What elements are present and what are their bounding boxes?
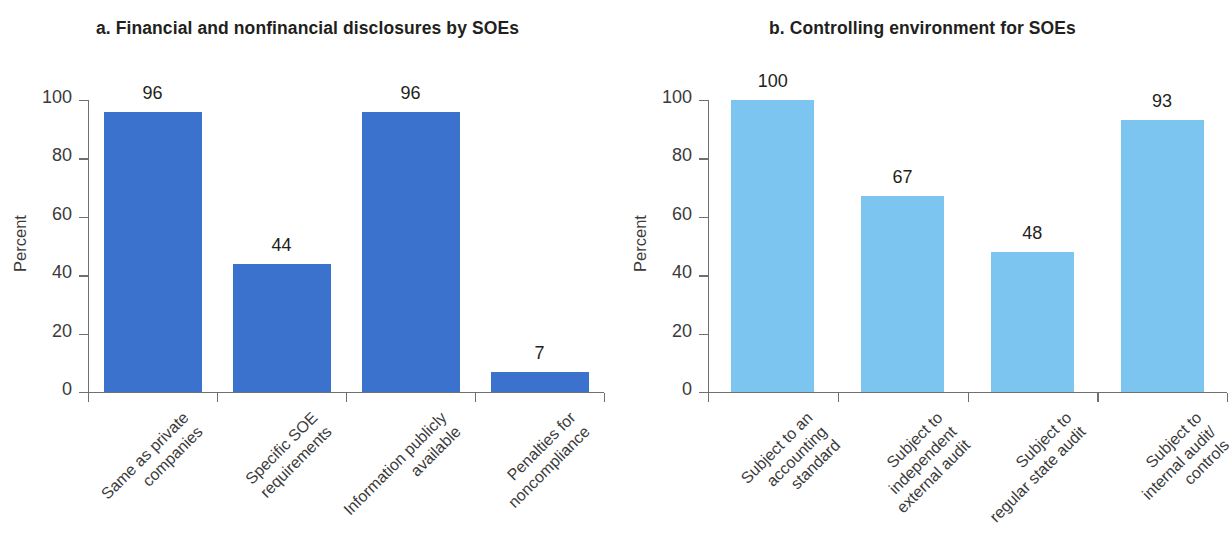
y-tick-label: 100 — [22, 87, 72, 108]
y-tick-mark — [79, 158, 88, 159]
y-tick-label: 20 — [642, 321, 692, 342]
bar — [362, 112, 460, 392]
panel-a: a. Financial and nonfinancial disclosure… — [0, 0, 615, 558]
y-tick-mark — [699, 334, 708, 335]
y-tick-mark — [79, 275, 88, 276]
x-tick-mark — [838, 393, 839, 402]
bar-value-label: 67 — [863, 167, 943, 188]
y-axis-line — [88, 100, 89, 393]
y-tick-mark — [79, 217, 88, 218]
y-tick-label: 40 — [22, 262, 72, 283]
x-tick-mark — [708, 393, 709, 402]
y-tick-mark — [699, 392, 708, 393]
y-axis-title: Percent — [631, 184, 650, 304]
x-tick-mark — [88, 393, 89, 402]
y-tick-label: 60 — [642, 204, 692, 225]
bar — [731, 100, 814, 392]
x-tick-mark — [346, 393, 347, 402]
bar-value-label: 48 — [992, 223, 1072, 244]
y-axis-title: Percent — [11, 184, 30, 304]
bar-value-label: 96 — [371, 83, 451, 104]
x-tick-mark — [1227, 393, 1228, 402]
bar-value-label: 100 — [733, 71, 813, 92]
y-tick-mark — [79, 100, 88, 101]
y-tick-mark — [699, 100, 708, 101]
panel-b: b. Controlling environment for SOEs 0204… — [615, 0, 1230, 558]
figure-two-panel-bar-charts: a. Financial and nonfinancial disclosure… — [0, 0, 1230, 558]
panel-b-plot-area: 020406080100Percent100Subject to an acco… — [615, 0, 1230, 558]
y-tick-mark — [699, 217, 708, 218]
bar — [991, 252, 1074, 392]
y-tick-label: 80 — [642, 145, 692, 166]
panel-a-plot-area: 020406080100Percent96Same as private com… — [0, 0, 615, 558]
y-tick-mark — [79, 334, 88, 335]
y-tick-label: 20 — [22, 321, 72, 342]
bar-value-label: 93 — [1122, 91, 1202, 112]
y-tick-label: 40 — [642, 262, 692, 283]
y-tick-label: 0 — [642, 379, 692, 400]
bar — [233, 264, 331, 392]
x-tick-mark — [604, 393, 605, 402]
y-tick-label: 0 — [22, 379, 72, 400]
x-tick-mark — [968, 393, 969, 402]
x-tick-mark — [217, 393, 218, 402]
x-tick-mark — [475, 393, 476, 402]
bar — [491, 372, 589, 392]
x-tick-mark — [1097, 393, 1098, 402]
bar — [861, 196, 944, 392]
bar-value-label: 7 — [500, 343, 580, 364]
y-tick-mark — [699, 275, 708, 276]
y-tick-label: 60 — [22, 204, 72, 225]
bar — [1121, 120, 1204, 392]
bar-value-label: 44 — [242, 235, 322, 256]
bar-value-label: 96 — [113, 83, 193, 104]
y-tick-label: 100 — [642, 87, 692, 108]
y-tick-mark — [699, 158, 708, 159]
y-axis-line — [708, 100, 709, 393]
y-tick-mark — [79, 392, 88, 393]
y-tick-label: 80 — [22, 145, 72, 166]
bar — [104, 112, 202, 392]
